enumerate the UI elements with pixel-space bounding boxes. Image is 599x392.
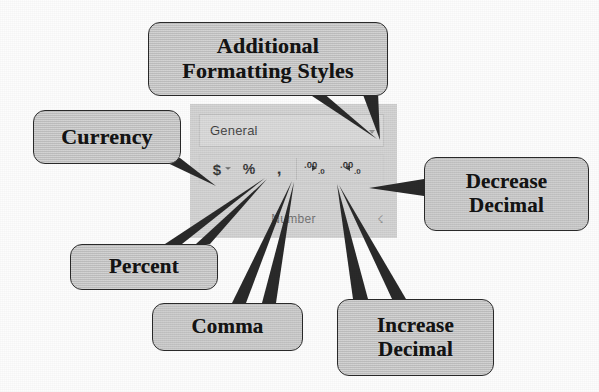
callout-decrease-decimal[interactable]: Decrease Decimal [424,157,589,231]
callout-currency[interactable]: Currency [33,110,181,164]
chevron-down-icon[interactable] [369,130,375,134]
decrease-decimal-button[interactable]: .00 .0 [335,155,371,183]
number-format-value: General [210,123,258,138]
callout-increase-line2: Decimal [371,338,460,362]
callout-currency-line1: Currency [55,125,159,150]
callout-comma-line1: Comma [185,315,269,339]
callout-additional-formatting-styles[interactable]: Additional Formatting Styles [148,22,388,96]
currency-glyph: $ [213,161,221,178]
decrease-decimal-icon: .00 .0 [339,159,367,179]
callout-additional-line1: Additional [176,34,359,59]
callout-decrease-line1: Decrease [460,170,554,194]
decrease-decimal-small: .0 [354,168,361,176]
increase-decimal-icon: .00 .0 [303,159,331,179]
comma-glyph: , [277,159,282,179]
callout-decrease-line2: Decimal [460,194,554,218]
percent-glyph: % [243,161,255,177]
right-arrow-icon [345,165,350,171]
callout-additional-line2: Formatting Styles [176,59,359,84]
percent-button[interactable]: % [234,155,264,183]
dialog-launcher-icon[interactable]: ☇ [374,213,387,226]
callout-percent[interactable]: Percent [70,244,218,290]
increase-decimal-small: .0 [318,168,325,176]
left-arrow-icon [312,165,317,171]
button-row-divider [296,158,297,180]
increase-decimal-button[interactable]: .00 .0 [299,155,335,183]
callout-increase-line1: Increase [371,314,460,338]
callout-percent-line1: Percent [103,255,185,279]
figure-canvas: General $ % , .00 .0 [0,0,599,392]
number-format-dropdown[interactable]: General [199,114,384,147]
currency-button[interactable]: $ [200,155,234,183]
callout-increase-decimal[interactable]: Increase Decimal [337,299,494,376]
callout-comma[interactable]: Comma [152,303,303,351]
comma-button[interactable]: , [264,155,294,183]
number-button-row: $ % , .00 .0 .00 . [199,154,384,184]
ribbon-number-group: General $ % , .00 .0 [190,104,397,238]
chevron-down-icon[interactable] [225,167,231,170]
ribbon-group-label: Number [190,212,397,226]
